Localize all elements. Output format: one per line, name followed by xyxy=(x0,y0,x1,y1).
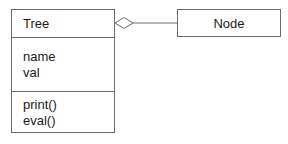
aggregation-diamond-icon xyxy=(115,18,133,29)
class-tree-name: Tree xyxy=(23,17,49,31)
class-tree-attributes-compartment: name val xyxy=(12,38,114,92)
attribute-val: val xyxy=(23,65,56,81)
attribute-name: name xyxy=(23,49,56,65)
class-node-name: Node xyxy=(178,17,280,31)
class-tree-name-compartment: Tree xyxy=(12,10,114,38)
class-tree-operations-compartment: print() eval() xyxy=(12,92,114,132)
class-node: Node xyxy=(177,9,281,37)
operation-eval: eval() xyxy=(23,113,57,129)
operation-print: print() xyxy=(23,97,57,113)
class-tree: Tree name val print() eval() xyxy=(11,9,115,133)
